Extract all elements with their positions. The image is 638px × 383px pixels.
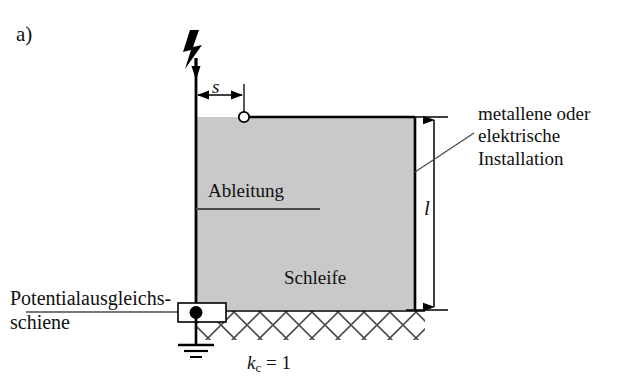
equipotential-busbar-label: Potentialausgleichs- schiene — [10, 287, 171, 334]
down-conductor-label: Ableitung — [208, 180, 284, 202]
installation-label-line2: elektrische — [478, 125, 590, 147]
loop-length-label: l — [424, 196, 430, 221]
open-circle-terminal-icon — [239, 112, 249, 122]
equipotential-busbar-icon — [178, 303, 226, 322]
equipotential-busbar-label-line2: schiene — [10, 311, 171, 335]
panel-label: a) — [16, 22, 32, 47]
soil-hatching — [196, 311, 425, 340]
installation-label-line3: Installation — [478, 148, 590, 170]
installation-label-line1: metallene oder — [478, 103, 590, 125]
installation-label: metallene oder elektrische Installation — [478, 103, 590, 170]
separation-distance-label: s — [212, 76, 219, 98]
lightning-protection-figure: a) s l Ableitung Schleife metallene oder… — [0, 0, 638, 383]
lightning-strike-icon — [183, 30, 202, 80]
kc-value: 1 — [281, 352, 291, 373]
kc-operator: = — [266, 352, 277, 373]
loop-label: Schleife — [284, 267, 346, 289]
installation-leader-line — [415, 133, 474, 172]
separation-distance-dimension — [196, 84, 244, 114]
kc-formula: kc = 1 — [247, 352, 291, 375]
equipotential-busbar-label-line1: Potentialausgleichs- — [10, 287, 171, 311]
